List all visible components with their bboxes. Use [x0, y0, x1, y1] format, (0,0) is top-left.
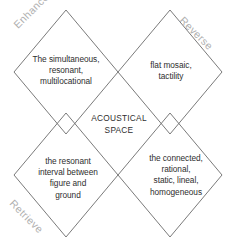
quadrant-text-top-right: flat mosaic, tactility [123, 60, 219, 82]
quadrant-text-bottom-right: the connected, rational, static, lineal,… [124, 153, 228, 198]
quadrant-text-bottom-left: the resonant interval between figure and… [14, 156, 122, 201]
tetrad-diagram: The simultaneous, resonant, multilocatio… [0, 0, 237, 248]
quadrant-text-top-left: The simultaneous, resonant, multilocatio… [12, 54, 120, 88]
diagram-center-title: ACOUSTICAL SPACE [69, 113, 169, 136]
